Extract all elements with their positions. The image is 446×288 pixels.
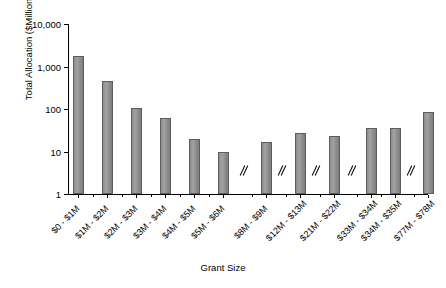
- x-minor-tick: [381, 195, 382, 197]
- bar: [218, 152, 229, 195]
- y-tick-label: 100: [45, 104, 61, 115]
- x-tick: [78, 195, 79, 198]
- y-tick-10000: [64, 24, 68, 25]
- x-axis-title: Grant Size: [0, 262, 446, 273]
- bar: [102, 81, 113, 194]
- bar: [73, 56, 84, 194]
- x-tick: [107, 195, 108, 198]
- x-minor-tick: [414, 195, 415, 197]
- x-tick: [165, 195, 166, 198]
- y-tick-label: 1: [56, 189, 61, 200]
- x-tick: [223, 195, 224, 198]
- x-minor-tick: [122, 195, 123, 197]
- bar: [261, 142, 272, 194]
- x-minor-tick: [93, 195, 94, 197]
- y-tick-label: 10: [50, 146, 61, 157]
- x-minor-tick: [286, 195, 287, 197]
- x-tick-label: $8M - $9M: [230, 203, 270, 243]
- x-minor-tick: [180, 195, 181, 197]
- x-minor-tick: [252, 195, 253, 197]
- bar-chart: Total Allocation ($Millions) 1101001,000…: [0, 0, 446, 288]
- bar: [329, 136, 340, 194]
- y-axis-line: [68, 24, 69, 194]
- x-minor-tick: [151, 195, 152, 197]
- x-tick: [136, 195, 137, 198]
- bar: [131, 108, 142, 194]
- bar: [189, 139, 200, 194]
- bar: [160, 118, 171, 194]
- x-tick: [194, 195, 195, 198]
- bar: [390, 128, 401, 194]
- bar: [295, 133, 306, 194]
- y-tick-100: [64, 109, 68, 110]
- x-tick-label: $12M - $13M: [264, 203, 304, 243]
- x-minor-tick: [320, 195, 321, 197]
- bar: [423, 112, 434, 194]
- plot-area: 1101001,00010,000: [68, 24, 428, 194]
- x-minor-tick: [209, 195, 210, 197]
- x-tick: [266, 195, 267, 198]
- y-tick-label: 1,000: [37, 61, 61, 72]
- y-tick-label: 10,000: [32, 19, 61, 30]
- bar: [366, 128, 377, 194]
- x-minor-tick: [357, 195, 358, 197]
- y-tick-1000: [64, 67, 68, 68]
- y-tick-10: [64, 152, 68, 153]
- y-tick-1: [64, 194, 68, 195]
